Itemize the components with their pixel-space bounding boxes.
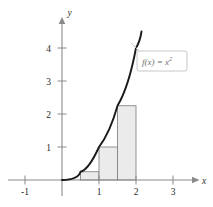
- y-tick-label: 2: [46, 110, 51, 120]
- y-tick-labels-group: 1 2 3 4: [46, 44, 51, 153]
- x-tick-label: 2: [134, 187, 139, 197]
- x-tick-label: -1: [21, 187, 29, 197]
- callout-label-main: f(x) = x: [142, 57, 169, 67]
- y-tick-label: 1: [46, 143, 51, 153]
- callout-label-exponent: 2: [169, 55, 172, 62]
- callout-label: f(x) = x2: [142, 55, 172, 67]
- x-tick-label: 1: [97, 187, 102, 197]
- y-tick-label: 4: [46, 44, 51, 54]
- x-tick-label: 3: [171, 187, 176, 197]
- x-tick-labels-group: -1 1 2 3: [21, 187, 176, 197]
- y-axis-arrow-icon: [59, 17, 66, 24]
- riemann-rectangle: [99, 147, 118, 180]
- y-axis-label: y: [66, 8, 72, 18]
- function-label-callout: f(x) = x2: [137, 51, 187, 71]
- x-axis-label: x: [201, 176, 207, 186]
- figure-container: -1 1 2 3 1 2 3 4 x y f(x) = x2: [0, 0, 213, 207]
- y-tick-label: 3: [46, 77, 51, 87]
- riemann-rectangle: [81, 172, 100, 180]
- x-axis-arrow-icon: [192, 177, 200, 184]
- riemann-rectangle: [118, 106, 137, 180]
- riemann-rectangles-group: [81, 106, 137, 180]
- plot-svg: -1 1 2 3 1 2 3 4 x y f(x) = x2: [0, 0, 213, 207]
